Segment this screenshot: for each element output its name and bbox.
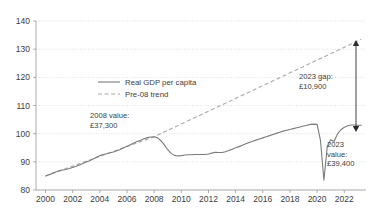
legend-label: Real GDP per capita (125, 78, 197, 87)
annot-2023-value: 2023value:£39,400 (327, 140, 354, 168)
x-tick-label: 2000 (36, 194, 55, 204)
y-tick-label: 100 (16, 129, 30, 139)
legend-label: Pre-08 trend (125, 90, 168, 99)
x-tick-labels: 2000200220042006200820102012201420162018… (36, 194, 354, 204)
gdp-per-capita-line-chart: 1401301201101009080 20002002200420062008… (0, 0, 375, 217)
gap-arrow-head-bottom (353, 126, 359, 132)
chart-legend: Real GDP per capitaPre-08 trend (98, 78, 197, 99)
x-tick-label: 2018 (280, 194, 299, 204)
gap-arrow-head-top (353, 40, 359, 46)
x-tick-label: 2002 (63, 194, 82, 204)
y-axis: 1401301201101009080 (16, 16, 36, 195)
x-tickmarks (46, 190, 345, 193)
x-tick-label: 2010 (172, 194, 191, 204)
x-tick-label: 2006 (118, 194, 137, 204)
y-tick-labels: 1401301201101009080 (16, 16, 30, 195)
y-tick-label: 130 (16, 44, 30, 54)
y-tick-label: 80 (21, 185, 31, 195)
x-tick-label: 2008 (145, 194, 164, 204)
annot-2023-gap: 2023 gap:£10,900 (299, 72, 333, 91)
x-axis: 2000200220042006200820102012201420162018… (36, 190, 366, 204)
gap-arrow-annotation (353, 40, 359, 132)
x-tick-label: 2012 (199, 194, 218, 204)
x-tick-label: 2004 (90, 194, 109, 204)
gridlines-group (36, 21, 366, 190)
chart-container: 1401301201101009080 20002002200420062008… (0, 0, 375, 217)
y-tickmarks (33, 21, 36, 190)
series-pre08-trend (46, 39, 362, 176)
data-series-group (46, 39, 362, 180)
x-tick-label: 2020 (308, 194, 327, 204)
y-tick-label: 140 (16, 16, 30, 26)
y-tick-label: 90 (21, 157, 31, 167)
annot-2008-value: 2008 value:£37,300 (90, 111, 129, 130)
series-real-gdp-per-capita (46, 124, 362, 180)
y-tick-label: 120 (16, 72, 30, 82)
x-tick-label: 2014 (226, 194, 245, 204)
y-tick-label: 110 (16, 101, 30, 111)
x-tick-label: 2016 (253, 194, 272, 204)
x-tick-label: 2022 (335, 194, 354, 204)
